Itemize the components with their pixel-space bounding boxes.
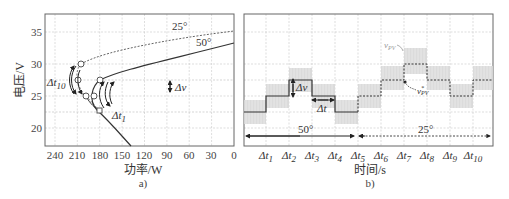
svg-text:Δt10: Δt10 [463,149,483,164]
grid-b [244,14,493,146]
svg-text:Δt6: Δt6 [373,149,389,164]
svg-text:20: 20 [31,122,43,134]
grid-a [45,14,234,146]
svg-text:Δt7: Δt7 [396,149,412,164]
svg-text:Δt5: Δt5 [350,149,366,164]
svg-text:120: 120 [136,149,153,161]
label-25deg: 25° [172,20,187,32]
svg-text:30: 30 [31,58,43,70]
svg-text:90: 90 [162,149,174,161]
y-axis-label-a: 电压/V [13,62,27,98]
x-ticks-b: Δt1 Δt2 Δt3 Δt4 Δt5 Δt6 Δt7 Δt8 Δt9 Δt10 [258,149,483,164]
svg-text:Δt1: Δt1 [258,149,273,164]
svg-text:Δt2: Δt2 [281,149,297,164]
region-50deg: 50° [246,123,354,136]
x-axis-label-a: 功率/W [124,162,163,177]
region-25deg: 25° [359,123,490,136]
svg-text:180: 180 [92,149,109,161]
dv-arrow-a: Δv [170,81,186,93]
svg-text:Δt9: Δt9 [442,149,458,164]
vref-annotation: v*PV [403,80,429,96]
svg-text:210: 210 [69,149,86,161]
figure: Δv Δt10 Δt1 25° 50° 35 30 25 20 240 210 … [0,0,509,199]
y-ticks-a: 35 30 25 20 [31,26,43,134]
svg-text:60: 60 [184,149,196,161]
dt-label-b: Δt [316,102,327,114]
dt10-label: Δt10 [46,76,66,91]
x-axis-label-b: 时间/s [354,163,386,177]
dv-arrow-b: Δv [293,79,307,97]
vpv-ripple [244,48,493,124]
dt1-trajectory-arrows [100,82,115,108]
dt1-label: Δt1 [111,109,126,124]
dv-label-a: Δv [174,81,186,93]
svg-text:35: 35 [31,26,43,38]
curve-25deg-lower [77,64,100,110]
region-25deg-label: 25° [418,123,433,135]
region-50deg-label: 50° [298,123,313,135]
svg-text:240: 240 [47,149,64,161]
svg-text:vPV: vPV [384,40,397,51]
caption-a: a) [139,177,148,190]
label-50deg: 50° [196,36,211,48]
vpv-annotation: vPV [384,40,403,51]
svg-text:25: 25 [31,90,43,102]
svg-text:Δt4: Δt4 [327,149,343,164]
svg-text:Δt8: Δt8 [419,149,435,164]
svg-text:Δt3: Δt3 [304,149,320,164]
panel-a: Δv Δt10 Δt1 25° 50° 35 30 25 20 240 210 … [13,14,237,190]
x-ticks-a: 240 210 180 150 120 90 60 30 0 [47,149,238,161]
svg-text:150: 150 [114,149,131,161]
dv-label-b: Δv [295,81,307,93]
panel-b: Δv Δt vPV v*PV 50° 25° [244,14,493,190]
svg-text:30: 30 [206,149,218,161]
svg-text:0: 0 [231,149,237,161]
caption-b: b) [365,177,375,190]
